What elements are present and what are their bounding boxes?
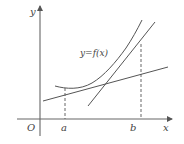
curve-label: y=f(x) — [79, 48, 109, 58]
y-axis-label: y — [29, 6, 36, 17]
x-axis-label: x — [163, 122, 169, 133]
point-a-label: a — [61, 122, 67, 133]
line-tangent — [88, 22, 155, 106]
function-diagram: y x O a b y=f(x) — [0, 0, 184, 144]
origin-label: O — [27, 122, 35, 133]
point-b-label: b — [130, 122, 136, 133]
